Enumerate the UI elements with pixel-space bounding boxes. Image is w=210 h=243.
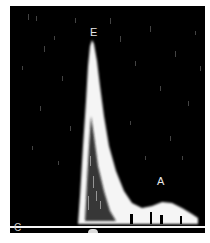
- a-wave-label: A: [157, 176, 164, 187]
- doppler-spectrum-panel: [10, 6, 205, 229]
- e-wave-label: E: [90, 27, 97, 38]
- baseline-band: [10, 228, 205, 233]
- waveform-graphic: [10, 6, 205, 229]
- baseline-marker: [88, 229, 98, 233]
- baseline-label: C: [14, 222, 21, 233]
